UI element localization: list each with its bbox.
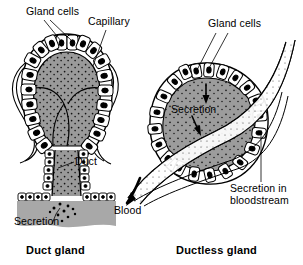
label-gland-cells-right: Gland cells	[208, 18, 261, 30]
label-capillary: Capillary	[88, 16, 130, 28]
label-duct: Duct	[75, 156, 97, 168]
ductless-gland-panel	[126, 33, 295, 206]
label-blood: Blood	[114, 205, 141, 217]
duct-gland-panel	[12, 20, 118, 227]
label-gland-cells-left: Gland cells	[26, 6, 79, 18]
caption-duct-gland: Duct gland	[26, 244, 85, 256]
label-secretion-right: Secretion	[171, 104, 216, 116]
label-secretion-in-bloodstream: Secretion in bloodstream	[230, 183, 289, 206]
label-secretion-left: Secretion	[14, 216, 59, 228]
caption-ductless-gland: Ductless gland	[176, 244, 257, 256]
